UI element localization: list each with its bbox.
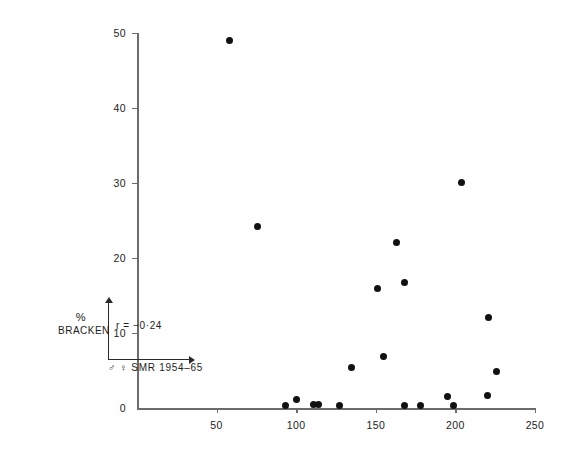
data-point <box>393 239 400 246</box>
y-tick-mark <box>132 108 137 109</box>
inset-y-arrow-icon <box>105 297 113 303</box>
data-point <box>493 368 500 375</box>
scatter-plot-figure: 5010015020025001020304050 %BRACKEN r = −… <box>0 0 571 450</box>
inset-x-axis-line <box>108 359 192 360</box>
y-tick-mark <box>132 33 137 34</box>
y-axis-label: %BRACKEN <box>58 310 104 338</box>
data-point <box>458 179 465 186</box>
x-axis-line <box>137 408 535 410</box>
data-point <box>444 393 451 400</box>
data-point <box>380 353 387 360</box>
data-point <box>401 402 408 409</box>
x-tick-mark <box>455 408 456 413</box>
y-tick-mark <box>132 258 137 259</box>
inset-annotation: %BRACKEN r = −0·24 ♂ ♀ SMR 1954–65 <box>60 296 200 380</box>
data-point <box>401 279 408 286</box>
data-point <box>348 364 355 371</box>
x-axis-label: ♂ ♀ SMR 1954–65 <box>108 362 203 373</box>
y-tick-label: 0 <box>100 402 126 414</box>
x-tick-label: 150 <box>356 419 396 431</box>
percent-symbol: % <box>58 310 104 324</box>
x-tick-mark <box>217 408 218 413</box>
data-point <box>484 392 491 399</box>
data-point <box>282 402 289 409</box>
x-tick-mark <box>376 408 377 413</box>
data-point <box>226 37 233 44</box>
data-point <box>315 401 322 408</box>
y-tick-mark <box>132 183 137 184</box>
y-tick-label: 20 <box>100 252 126 264</box>
data-point <box>374 285 381 292</box>
data-point <box>293 396 300 403</box>
x-tick-mark <box>296 408 297 413</box>
y-tick-label: 40 <box>100 102 126 114</box>
y-tick-label: 30 <box>100 177 126 189</box>
x-tick-label: 200 <box>435 419 475 431</box>
data-point <box>336 402 343 409</box>
data-point <box>485 314 492 321</box>
x-tick-label: 100 <box>276 419 316 431</box>
correlation-annotation: r = −0·24 <box>116 320 162 331</box>
x-tick-label: 250 <box>515 419 555 431</box>
x-tick-mark <box>535 408 536 413</box>
data-point <box>254 223 261 230</box>
bracken-label: BRACKEN <box>58 325 110 336</box>
data-point <box>417 402 424 409</box>
x-tick-label: 50 <box>197 419 237 431</box>
y-tick-label: 50 <box>100 27 126 39</box>
